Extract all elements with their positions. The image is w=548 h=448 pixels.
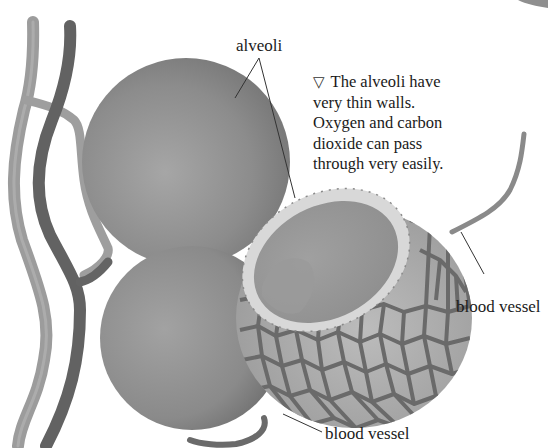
caption-line-3: Oxygen and carbon [313,113,543,134]
label-blood-vessel-right: blood vessel [456,297,541,316]
caption-line-4: dioxide can pass [313,134,543,155]
alveoli-illustration [0,0,548,448]
corner-shade [518,0,548,8]
caption: ▽The alveoli have very thin walls. Oxyge… [313,72,543,175]
caption-line-1: ▽The alveoli have [313,72,543,93]
label-blood-vessel-bottom: blood vessel [325,424,410,443]
caption-line-2: very thin walls. [313,93,543,114]
label-alveoli: alveoli [236,36,282,55]
caption-line-5: through very easily. [313,154,543,175]
alveoli-diagram: alveoli blood vessel blood vessel ▽The a… [0,0,548,448]
triangle-marker-icon: ▽ [313,73,325,91]
